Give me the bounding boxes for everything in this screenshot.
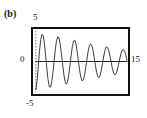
panel-label: (b): [4, 9, 16, 19]
y-axis-min-label: -5: [26, 99, 34, 108]
x-axis-max-label: 15: [131, 55, 140, 64]
figure-panel-b: (b) 5 0 -5 15: [0, 0, 147, 118]
plot-canvas: [33, 29, 128, 94]
y-axis-zero-label: 0: [20, 55, 25, 64]
y-axis-max-label: 5: [33, 13, 38, 22]
plot-frame: [31, 27, 130, 96]
